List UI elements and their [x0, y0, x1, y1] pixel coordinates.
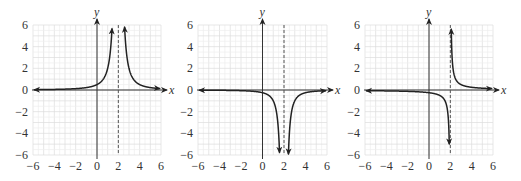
- x-tick-label: 6: [324, 159, 330, 173]
- x-tick-label: 6: [490, 159, 496, 173]
- y-tick-label: −2: [15, 105, 28, 119]
- y-tick-label: 4: [354, 40, 360, 54]
- y-tick-label: 6: [354, 18, 360, 32]
- y-tick-label: 0: [187, 83, 193, 97]
- y-tick-label: −6: [180, 148, 193, 162]
- x-tick-label: −4: [380, 159, 393, 173]
- x-axis-label: x: [500, 83, 507, 97]
- x-tick-label: −6: [359, 159, 372, 173]
- y-tick-label: −4: [180, 126, 193, 140]
- x-tick-label: 0: [260, 159, 266, 173]
- x-tick-label: 2: [281, 159, 287, 173]
- x-tick-label: −4: [213, 159, 226, 173]
- y-tick-label: −2: [180, 105, 193, 119]
- x-axis-label: x: [334, 83, 341, 97]
- x-tick-label: −2: [69, 159, 82, 173]
- y-tick-label: 0: [22, 83, 28, 97]
- y-tick-label: 4: [22, 40, 28, 54]
- y-tick-label: 6: [187, 18, 193, 32]
- y-tick-label: 0: [354, 83, 360, 97]
- y-tick-label: 4: [187, 40, 193, 54]
- x-tick-label: −2: [401, 159, 414, 173]
- y-tick-label: −6: [347, 148, 360, 162]
- x-tick-label: 0: [94, 159, 100, 173]
- y-tick-label: 2: [22, 61, 28, 75]
- y-tick-label: 6: [22, 18, 28, 32]
- x-tick-label: 2: [115, 159, 121, 173]
- graph-2: xy−6−4−202466420−2−4−6: [180, 5, 341, 173]
- figure: xy−6−4−202466420−2−4−6xy−6−4−202466420−2…: [0, 0, 521, 181]
- y-tick-label: −4: [347, 126, 360, 140]
- x-tick-label: 0: [426, 159, 432, 173]
- y-tick-label: −6: [15, 148, 28, 162]
- y-tick-label: 2: [354, 61, 360, 75]
- x-tick-label: −2: [235, 159, 248, 173]
- y-axis-label: y: [93, 5, 100, 19]
- curve-left-branch: [199, 90, 279, 153]
- y-axis-label: y: [259, 5, 266, 19]
- x-tick-label: 4: [137, 159, 143, 173]
- x-axis-label: x: [168, 83, 175, 97]
- x-tick-label: −4: [48, 159, 61, 173]
- x-tick-label: −6: [27, 159, 40, 173]
- x-tick-label: 4: [469, 159, 475, 173]
- graph-3: xy−6−4−202466420−2−4−6: [347, 5, 507, 173]
- x-tick-label: 2: [447, 159, 453, 173]
- graph-1: xy−6−4−202466420−2−4−6: [15, 5, 175, 173]
- x-tick-label: −6: [192, 159, 205, 173]
- y-tick-label: −2: [347, 105, 360, 119]
- y-tick-label: −4: [15, 126, 28, 140]
- x-tick-label: 6: [158, 159, 164, 173]
- y-tick-label: 2: [187, 61, 193, 75]
- x-tick-label: 4: [303, 159, 309, 173]
- y-axis-label: y: [425, 5, 432, 19]
- graphs-svg: xy−6−4−202466420−2−4−6xy−6−4−202466420−2…: [0, 0, 521, 181]
- curve-left-branch: [34, 28, 112, 89]
